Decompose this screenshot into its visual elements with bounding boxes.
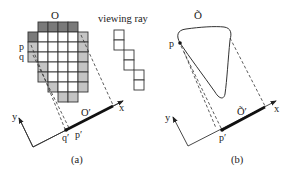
object-label-o: O (51, 9, 59, 21)
point-p-dot (178, 41, 182, 45)
point-label-q-prime: q′ (62, 132, 69, 143)
projection-label-o-prime: O′ (81, 107, 91, 118)
projection-label-o-tilde-prime: Õ′ (237, 106, 247, 117)
point-label-p-prime: p′ (75, 129, 82, 140)
figure: O p q viewing ray y x O′ q (0, 0, 289, 173)
viewing-ray-cells (114, 30, 144, 90)
axis-y-label: y (12, 111, 18, 122)
object-outline (178, 27, 231, 98)
voxel-grid (28, 22, 88, 102)
point-label-p-prime-b: p′ (219, 132, 226, 143)
caption-a: (a) (71, 154, 83, 166)
viewing-ray-label: viewing ray (98, 13, 149, 24)
panel-b: p Õ y x Õ′ p′ (b) (165, 9, 280, 166)
caption-b: (b) (231, 154, 244, 166)
axis-x-label: x (119, 102, 125, 113)
axes-a (19, 101, 123, 147)
projection-lines-b (181, 38, 265, 130)
point-label-q: q (19, 51, 24, 62)
panel-a: O p q viewing ray y x O′ q (12, 9, 149, 166)
object-label-o-tilde: Õ (194, 9, 202, 21)
axis-x-label-b: x (274, 103, 280, 114)
axis-y-label-b: y (165, 112, 171, 123)
point-label-p-b: p (169, 38, 174, 49)
